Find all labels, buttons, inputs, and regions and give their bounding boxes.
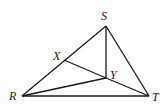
label-T: T: [152, 90, 160, 104]
segment-RY: [22, 78, 106, 96]
segment-SR: [22, 26, 106, 96]
segment-XY: [64, 60, 106, 78]
label-Y: Y: [110, 68, 118, 82]
label-S: S: [101, 9, 107, 23]
segment-ST: [106, 26, 149, 96]
label-R: R: [8, 89, 17, 103]
triangle-diagram: S R T X Y: [0, 0, 166, 108]
label-X: X: [52, 49, 61, 63]
